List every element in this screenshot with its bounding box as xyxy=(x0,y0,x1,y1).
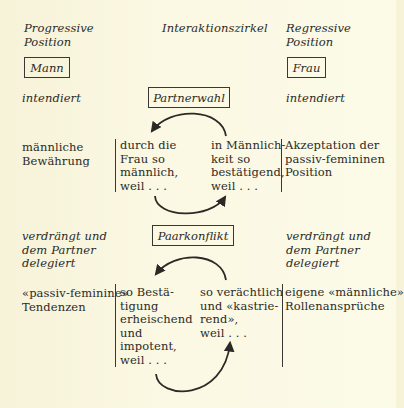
arrow-bottom-2-icon xyxy=(156,343,230,391)
arrow-top-2-icon xyxy=(156,257,226,280)
arrow-bottom-1-icon xyxy=(155,196,225,213)
arrow-top-1-icon xyxy=(152,114,226,136)
